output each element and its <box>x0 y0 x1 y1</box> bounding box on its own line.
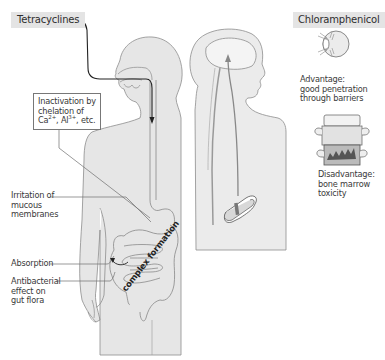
irritation-label: Irritation of mucous membranes <box>11 191 58 220</box>
chloramphenicol-title: Chloramphenicol <box>298 14 380 25</box>
tetracyclines-title: Tetracyclines <box>17 14 79 25</box>
advantage-label: Advantage: good penetration through barr… <box>300 75 368 104</box>
ion-ca: Ca <box>38 115 48 125</box>
antibacterial-label: Antibacterial effect on gut flora <box>11 277 61 306</box>
inactivation-ions: Ca2+, Al3+, etc. <box>38 116 96 126</box>
disadvantage-line3: toxicity <box>318 189 375 199</box>
advantage-line3: through barriers <box>300 94 368 104</box>
body-silhouette <box>80 37 182 355</box>
ion-al-charge: 3+ <box>68 114 76 120</box>
antibacterial-line3: gut flora <box>11 296 61 306</box>
chloramphenicol-tag: Chloramphenicol <box>293 12 385 28</box>
tetracyclines-tag: Tetracyclines <box>11 12 85 28</box>
cns-panel <box>190 29 286 250</box>
eye-icon <box>318 31 349 57</box>
irritation-line3: membranes <box>11 210 58 220</box>
brain-icon <box>206 38 256 69</box>
vertebra-bone-marrow-icon <box>315 115 369 165</box>
ion-suffix: , etc. <box>76 115 95 125</box>
absorption-line1: Absorption <box>11 259 53 269</box>
inactivation-box: Inactivation by chelation of Ca2+, Al3+,… <box>33 93 101 130</box>
ion-ca-charge: 2+ <box>48 114 56 120</box>
disadvantage-label: Disadvantage: bone marrow toxicity <box>318 170 375 199</box>
absorption-label: Absorption <box>11 259 53 269</box>
